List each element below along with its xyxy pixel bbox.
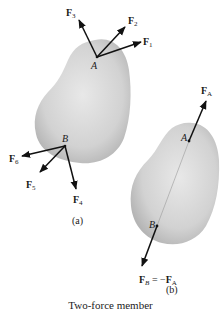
panel-b-label: (b) xyxy=(166,284,178,296)
point-b-marker xyxy=(64,145,67,148)
point-b-label: B xyxy=(62,133,68,144)
force-label-fa: FA xyxy=(201,85,212,98)
figure-caption: Two-force member xyxy=(0,299,221,311)
rigid-body-b xyxy=(131,123,219,245)
point-a-marker-b xyxy=(188,140,191,143)
force-label-f1: F1 xyxy=(143,36,153,49)
point-a-label-b: A xyxy=(180,132,188,143)
point-b-label-b: B xyxy=(149,219,155,230)
force-label-f2: F2 xyxy=(128,15,138,28)
panel-a-label: (a) xyxy=(72,215,83,227)
point-a-label: A xyxy=(90,60,98,71)
panel-b: A B FA FB = −FA (b) xyxy=(131,85,219,296)
force-label-f4: F4 xyxy=(73,194,83,207)
rigid-body-a xyxy=(35,39,131,163)
point-a-marker xyxy=(96,56,99,59)
two-force-member-diagram: A B F3 F2 F1 F6 F5 F4 (a) A B FA FB = −F… xyxy=(0,0,221,313)
force-label-f6: F6 xyxy=(9,153,19,166)
point-b-marker-b xyxy=(156,225,159,228)
force-label-f3: F3 xyxy=(66,7,76,20)
force-label-f5: F5 xyxy=(26,179,36,192)
